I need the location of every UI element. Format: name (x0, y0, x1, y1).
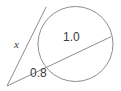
circle-shape (38, 7, 113, 82)
external-secant-length-label: 0.8 (30, 67, 47, 79)
secant-line (7, 37, 112, 87)
chord-length-label: 1.0 (63, 31, 80, 43)
geometry-diagram: x 1.0 0.8 (0, 0, 121, 91)
tangent-length-label: x (14, 39, 19, 50)
